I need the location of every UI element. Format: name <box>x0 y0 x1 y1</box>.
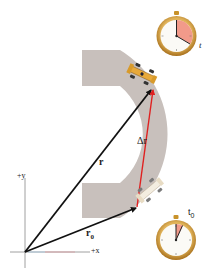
label-delta-r: Δr <box>137 136 147 146</box>
label-time-t: t <box>199 41 202 50</box>
stopwatch-t0-icon <box>156 215 196 260</box>
label-delta-r-text: Δr <box>137 135 147 146</box>
stopwatch-t-icon <box>157 11 197 56</box>
label-axis-x: +x <box>91 247 100 255</box>
diagram-canvas <box>0 0 215 272</box>
label-r0: r0 <box>86 228 94 241</box>
motion-vector-diagram: r Δr r0 +y +x t t0 <box>0 0 215 272</box>
coordinate-axes <box>10 178 90 268</box>
race-track <box>82 50 168 218</box>
label-r0-sub: 0 <box>90 233 94 241</box>
label-time-t0: t0 <box>188 208 194 219</box>
label-time-t0-sub: 0 <box>191 212 195 219</box>
label-r: r <box>99 157 103 167</box>
label-axis-y: +y <box>17 172 26 180</box>
